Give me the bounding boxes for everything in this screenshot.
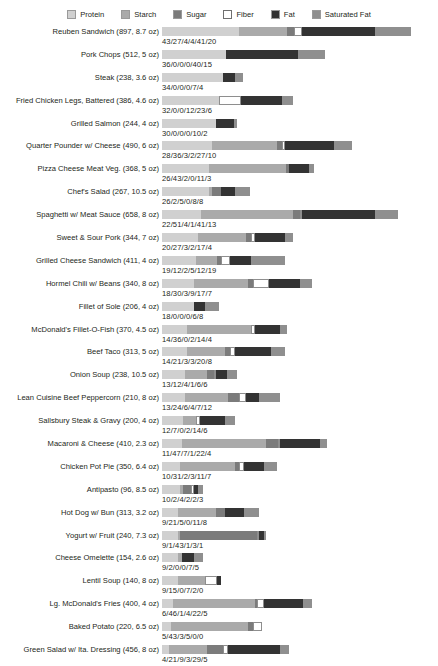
row-category-label: Green Salad w/ Ita. Dressing (456, 8 oz) (0, 645, 159, 655)
bar-segment-fat (225, 508, 245, 517)
stacked-bar[interactable] (162, 393, 280, 402)
row-value-label: 13/12/4/1/6/6 (162, 380, 208, 390)
bar-segment-fat (255, 325, 280, 334)
row-value-label: 11/47/7/1/22/4 (162, 449, 211, 459)
legend-item-protein[interactable]: Protein (67, 10, 104, 19)
row-category-label: Grilled Salmon (244, 4 oz) (0, 119, 159, 129)
row-category-label: Reuben Sandwich (897, 8.7 oz) (0, 27, 159, 37)
chart-row: Chicken Pot Pie (350, 6.4 oz)10/31/2/3/1… (0, 461, 438, 484)
stacked-bar[interactable] (162, 119, 237, 128)
bar-segment-saturated-fat (309, 164, 314, 173)
bar-segment-protein (162, 27, 239, 36)
chart-row: Macaroni & Cheese (410, 2.3 oz)11/47/7/1… (0, 438, 438, 461)
bar-segment-saturated-fat (259, 393, 280, 402)
stacked-bar[interactable] (162, 508, 259, 517)
row-value-label: 26/2/5/0/8/8 (162, 197, 203, 207)
bar-segment-saturated-fat (280, 325, 287, 334)
row-value-label: 18/0/0/0/6/8 (162, 312, 203, 322)
bar-segment-starch (239, 27, 287, 36)
row-value-label: 18/30/3/9/17/7 (162, 289, 212, 299)
legend-item-fat[interactable]: Fat (271, 10, 295, 19)
stacked-bar[interactable] (162, 485, 203, 494)
stacked-bar[interactable] (162, 210, 398, 219)
legend-swatch-icon (173, 10, 182, 19)
bar-segment-saturated-fat (225, 416, 236, 425)
stacked-bar[interactable] (162, 27, 411, 36)
row-value-label: 14/21/3/3/20/8 (162, 357, 212, 367)
legend-label: Saturated Fat (325, 10, 371, 19)
chart-row: Fillet of Sole (206, 4 oz)18/0/0/0/6/8 (0, 301, 438, 324)
bar-segment-saturated-fat (285, 233, 292, 242)
row-value-label: 19/12/2/5/12/19 (162, 266, 216, 276)
stacked-bar[interactable] (162, 233, 293, 242)
stacked-bar[interactable] (162, 347, 285, 356)
stacked-bar[interactable] (162, 279, 312, 288)
legend-item-saturated-fat[interactable]: Saturated Fat (312, 10, 371, 19)
chart-row: Pizza Cheese Meat Veg. (368, 5 oz)26/43/… (0, 163, 438, 186)
chart-row: Baked Potato (220, 6.5 oz)5/43/3/5/0/0 (0, 621, 438, 644)
bar-segment-starch (194, 279, 248, 288)
row-category-label: Fried Chicken Legs, Battered (386, 4.6 o… (0, 96, 159, 106)
bar-segment-sugar (207, 370, 214, 379)
row-category-label: Chef's Salad (267, 10.5 oz) (0, 187, 159, 197)
bar-segment-protein (162, 96, 219, 105)
row-category-label: Spaghetti w/ Meat Sauce (658, 8 oz) (0, 210, 159, 220)
bar-segment-starch (171, 622, 248, 631)
bar-segment-fat (226, 50, 298, 59)
row-value-label: 10/2/4/2/2/3 (162, 495, 203, 505)
bar-segment-fat (302, 210, 375, 219)
stacked-bar[interactable] (162, 302, 219, 311)
row-category-label: Hot Dog w/ Bun (313, 3.2 oz) (0, 508, 159, 518)
bar-segment-saturated-fat (235, 73, 242, 82)
bar-segment-protein (162, 119, 216, 128)
stacked-bar[interactable] (162, 576, 221, 585)
row-value-label: 22/51/4/1/41/13 (162, 220, 216, 230)
legend-item-starch[interactable]: Starch (121, 10, 156, 19)
bar-segment-protein (162, 531, 178, 540)
legend-swatch-icon (312, 10, 321, 19)
bar-segment-protein (162, 416, 183, 425)
legend-item-fiber[interactable]: Fiber (223, 10, 253, 19)
stacked-bar[interactable] (162, 50, 325, 59)
row-value-label: 5/43/3/5/0/0 (162, 632, 203, 642)
chart-row: Grilled Salmon (244, 4 oz)30/0/0/0/10/2 (0, 118, 438, 141)
stacked-bar[interactable] (162, 599, 312, 608)
stacked-bar[interactable] (162, 370, 237, 379)
stacked-bar[interactable] (162, 416, 235, 425)
bar-segment-fat (280, 439, 319, 448)
bar-segment-protein (162, 508, 178, 517)
stacked-bar[interactable] (162, 141, 352, 150)
bar-segment-protein (162, 141, 212, 150)
bar-segment-fat (255, 233, 285, 242)
bar-segment-protein (162, 485, 180, 494)
stacked-bar[interactable] (162, 73, 243, 82)
legend-item-sugar[interactable]: Sugar (173, 10, 206, 19)
row-value-label: 20/27/3/2/17/4 (162, 243, 212, 253)
stacked-bar[interactable] (162, 531, 266, 540)
bar-segment-sugar (266, 439, 279, 448)
stacked-bar[interactable] (162, 96, 293, 105)
bar-segment-starch (183, 416, 196, 425)
bar-segment-protein (162, 210, 201, 219)
stacked-bar[interactable] (162, 462, 277, 471)
stacked-bar[interactable] (162, 187, 250, 196)
stacked-bar[interactable] (162, 164, 314, 173)
row-category-label: Lg. McDonald's Fries (400, 4 oz) (0, 599, 159, 609)
stacked-bar[interactable] (162, 256, 285, 265)
bar-segment-protein (162, 645, 169, 654)
chart-row: Reuben Sandwich (897, 8.7 oz)43/27/4/4/4… (0, 26, 438, 49)
row-category-label: Sallsbury Steak & Gravy (200, 4 oz) (0, 416, 159, 426)
stacked-bar[interactable] (162, 439, 327, 448)
bar-segment-saturated-fat (205, 302, 219, 311)
bar-segment-fat (200, 416, 225, 425)
chart-row: Lean Cuisine Beef Peppercorn (210, 8 oz)… (0, 392, 438, 415)
legend-swatch-icon (223, 10, 232, 19)
stacked-bar[interactable] (162, 325, 287, 334)
stacked-bar[interactable] (162, 553, 203, 562)
row-category-label: Lean Cuisine Beef Peppercorn (210, 8 oz) (0, 393, 159, 403)
stacked-bar[interactable] (162, 622, 262, 631)
stacked-bar[interactable] (162, 645, 289, 654)
bar-segment-saturated-fat (271, 347, 285, 356)
row-value-label: 9/1/43/1/3/1 (162, 541, 203, 551)
